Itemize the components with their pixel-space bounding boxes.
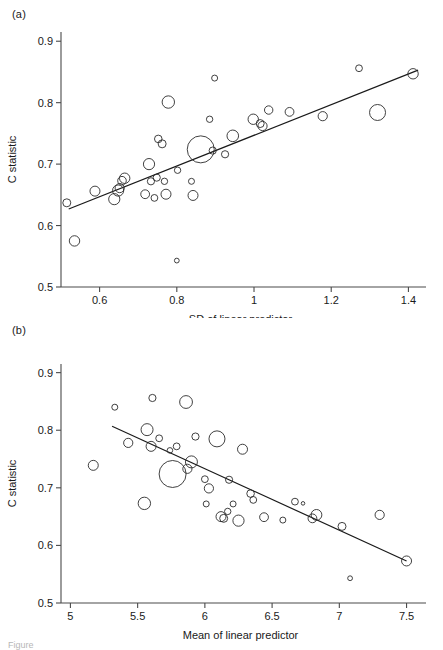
data-bubble	[221, 151, 228, 158]
x-tick-label: 0.8	[169, 294, 184, 306]
data-bubble	[280, 517, 286, 523]
data-bubble	[292, 498, 299, 505]
x-tick-label: 0.6	[92, 294, 107, 306]
data-bubble	[149, 394, 156, 401]
x-tick-label: 1.4	[401, 294, 416, 306]
data-bubble	[187, 136, 214, 163]
data-bubble	[256, 120, 264, 128]
x-tick-label: 1	[251, 294, 257, 306]
data-bubble	[119, 173, 129, 183]
data-bubble	[188, 190, 198, 200]
data-bubble	[212, 75, 218, 81]
y-tick-label: 0.9	[38, 35, 53, 47]
x-tick-label: 5	[67, 610, 73, 622]
data-bubble	[338, 522, 346, 530]
x-tick-label: 1.2	[324, 294, 339, 306]
data-bubble	[112, 404, 118, 410]
data-bubble	[162, 96, 174, 108]
y-tick-label: 0.9	[38, 367, 53, 379]
data-bubble	[146, 441, 156, 451]
data-bubble	[370, 104, 386, 120]
x-tick-label: 7	[336, 610, 342, 622]
x-tick-label: 7.5	[399, 610, 414, 622]
panel-a-plot: 0.50.60.70.80.90.60.811.21.4SD of linear…	[0, 0, 443, 318]
data-bubble	[285, 107, 294, 116]
data-bubble	[260, 513, 269, 522]
y-axis-title: C statistic	[6, 459, 18, 507]
x-axis-title: Mean of linear predictor	[183, 629, 299, 641]
data-bubble	[233, 515, 244, 526]
data-bubble	[141, 424, 153, 436]
y-tick-label: 0.7	[38, 482, 53, 494]
data-bubble	[143, 159, 154, 170]
data-bubble	[141, 190, 150, 199]
data-bubble	[301, 502, 305, 506]
data-bubble	[206, 116, 212, 122]
data-bubble	[264, 106, 272, 114]
data-bubble	[151, 195, 158, 202]
data-bubble	[375, 510, 384, 519]
data-bubble	[209, 431, 225, 447]
data-bubble	[124, 438, 133, 447]
data-bubble	[230, 501, 236, 507]
data-bubble	[356, 65, 363, 72]
y-tick-label: 0.8	[38, 97, 53, 109]
data-bubble	[318, 112, 327, 121]
data-bubble	[183, 464, 192, 473]
data-bubble	[204, 484, 213, 493]
y-tick-label: 0.6	[38, 539, 53, 551]
data-bubble	[90, 186, 100, 196]
data-bubble	[238, 444, 248, 454]
data-bubble	[69, 236, 79, 246]
data-bubble	[225, 508, 231, 514]
x-tick-label: 5.5	[130, 610, 145, 622]
y-tick-label: 0.7	[38, 158, 53, 170]
x-tick-label: 6.5	[264, 610, 279, 622]
data-bubble	[154, 135, 162, 143]
data-bubble	[109, 194, 120, 205]
data-bubble	[402, 556, 412, 566]
data-bubble	[138, 497, 150, 509]
data-bubble	[174, 167, 180, 173]
data-bubble	[63, 199, 71, 207]
data-bubble	[174, 258, 179, 263]
figure-caption: Figure	[8, 640, 34, 650]
data-bubble	[248, 114, 258, 124]
panel-b-plot: 0.50.60.70.80.955.566.577.5Mean of linea…	[0, 318, 443, 650]
data-bubble	[156, 435, 163, 442]
panel-a: (a) 0.50.60.70.80.90.60.811.21.4SD of li…	[0, 0, 443, 318]
y-axis-title: C statistic	[6, 135, 18, 183]
data-bubble	[203, 501, 209, 507]
data-bubble	[201, 476, 208, 483]
data-bubble	[258, 121, 267, 130]
data-bubble	[348, 576, 353, 581]
data-bubble	[250, 497, 257, 504]
data-bubble	[192, 433, 199, 440]
data-bubble	[227, 130, 239, 142]
y-tick-label: 0.5	[38, 597, 53, 609]
data-bubble	[188, 178, 194, 184]
data-bubble	[159, 460, 186, 487]
data-bubble	[153, 174, 160, 181]
y-tick-label: 0.6	[38, 220, 53, 232]
data-bubble	[158, 140, 166, 148]
panel-b: (b) 0.50.60.70.80.955.566.577.5Mean of l…	[0, 318, 443, 650]
y-tick-label: 0.8	[38, 424, 53, 436]
data-bubble	[88, 460, 98, 470]
data-bubble	[173, 443, 180, 450]
fit-line	[69, 70, 418, 209]
figure-root: (a) 0.50.60.70.80.90.60.811.21.4SD of li…	[0, 0, 443, 650]
y-tick-label: 0.5	[38, 281, 53, 293]
x-tick-label: 6	[202, 610, 208, 622]
data-bubble	[161, 178, 167, 184]
data-bubble	[161, 189, 171, 199]
data-bubble	[180, 396, 193, 409]
